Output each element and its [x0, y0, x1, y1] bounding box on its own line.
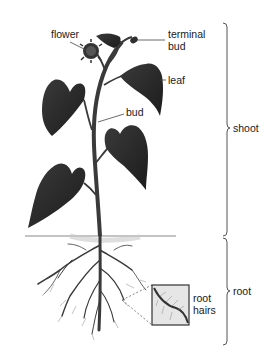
label-shoot: shoot [233, 122, 259, 134]
label-flower: flower [51, 28, 79, 40]
flower [80, 39, 102, 63]
label-terminal-bud-line1: terminal [168, 28, 205, 40]
shoot-bracket [223, 23, 230, 236]
label-leaf: leaf [168, 74, 185, 86]
label-root: root [233, 285, 251, 297]
plant-diagram [0, 0, 273, 363]
leaf-right-middle [105, 125, 148, 190]
root-bracket [223, 238, 230, 345]
label-root-hairs-line2: hairs [193, 304, 216, 316]
label-bud: bud [126, 106, 144, 118]
root-hairs-inset [122, 285, 189, 325]
leaf-left-lower [28, 163, 85, 228]
roots [38, 236, 146, 334]
leaf-left-upper [42, 80, 85, 137]
label-terminal-bud-line2: bud [168, 40, 186, 52]
label-root-hairs-line1: root [193, 292, 211, 304]
